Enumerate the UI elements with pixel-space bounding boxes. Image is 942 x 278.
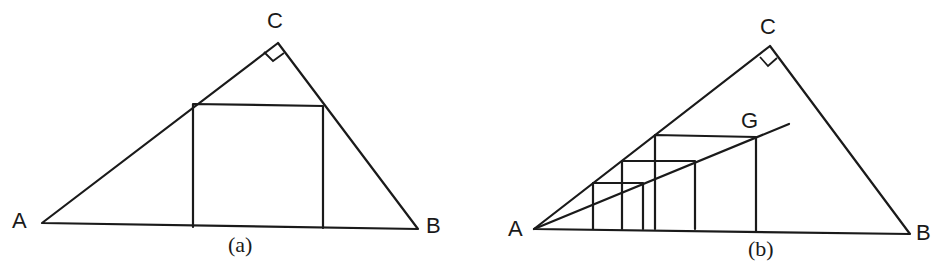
vertex-label-a: A <box>12 208 27 233</box>
vertex-label-a: A <box>508 216 523 241</box>
vertex-label-b: B <box>916 220 931 245</box>
inscribed-square <box>193 104 323 228</box>
figure-a: A B C (a) <box>12 8 441 257</box>
vertex-label-c: C <box>760 14 776 39</box>
large-square <box>655 135 756 231</box>
caption-b: (b) <box>748 236 774 261</box>
figure-b: A B C G (b) <box>508 14 931 261</box>
vertex-label-c: C <box>267 8 283 33</box>
line-ag <box>534 124 789 229</box>
triangle-abc <box>42 43 418 229</box>
right-angle-marker <box>760 57 777 66</box>
medium-square <box>622 161 695 229</box>
vertex-label-b: B <box>426 213 441 238</box>
point-label-g: G <box>741 108 758 133</box>
diagram-canvas: A B C (a) A B C G (b) <box>0 0 942 278</box>
caption-a: (a) <box>228 232 252 257</box>
right-angle-marker <box>264 52 284 61</box>
small-square <box>593 183 643 229</box>
